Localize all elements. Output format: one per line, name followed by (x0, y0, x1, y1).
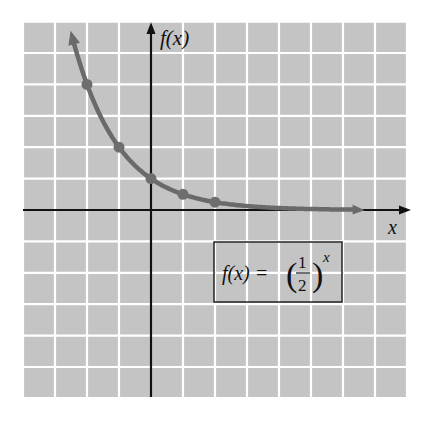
formula-denominator: 2 (298, 276, 307, 295)
data-point (82, 79, 93, 90)
formula-paren-right: ) (312, 256, 323, 294)
formula-lhs: f(x) = (222, 262, 268, 285)
data-point (178, 189, 189, 200)
formula-exponent: x (322, 249, 330, 265)
formula-paren-left: ( (286, 256, 297, 294)
function-graph: f(x) x f(x) = ( 1 2 ) x (0, 0, 421, 424)
y-axis-label: f(x) (160, 26, 189, 50)
formula-numerator: 1 (298, 253, 307, 272)
x-axis-label: x (387, 216, 397, 238)
data-point (114, 142, 125, 153)
data-point (146, 173, 157, 184)
data-point (210, 197, 221, 208)
